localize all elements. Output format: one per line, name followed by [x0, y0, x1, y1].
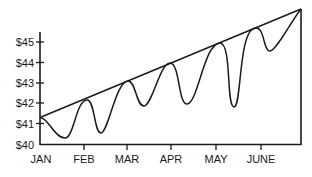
y-label-41: $41	[16, 118, 34, 130]
y-label-45: $45	[16, 36, 34, 48]
y-label-43: $43	[16, 77, 34, 89]
price-trend-chart: $45 $44 $43 $42 $41 $40 JAN FEB MAR APR …	[0, 0, 312, 177]
x-tick-labels: JAN FEB MAR APR MAY JUNE	[31, 153, 276, 165]
y-label-44: $44	[16, 57, 34, 69]
x-label-mar: MAR	[115, 153, 140, 165]
y-label-40: $40	[16, 139, 34, 151]
x-label-june: JUNE	[247, 153, 276, 165]
y-tick-labels: $45 $44 $43 $42 $41 $40	[16, 36, 34, 151]
x-label-jan: JAN	[31, 153, 52, 165]
x-label-feb: FEB	[73, 153, 94, 165]
price-curve	[41, 9, 301, 138]
x-label-apr: APR	[160, 153, 183, 165]
x-label-may: MAY	[204, 153, 228, 165]
axes	[40, 9, 301, 145]
y-label-42: $42	[16, 97, 34, 109]
